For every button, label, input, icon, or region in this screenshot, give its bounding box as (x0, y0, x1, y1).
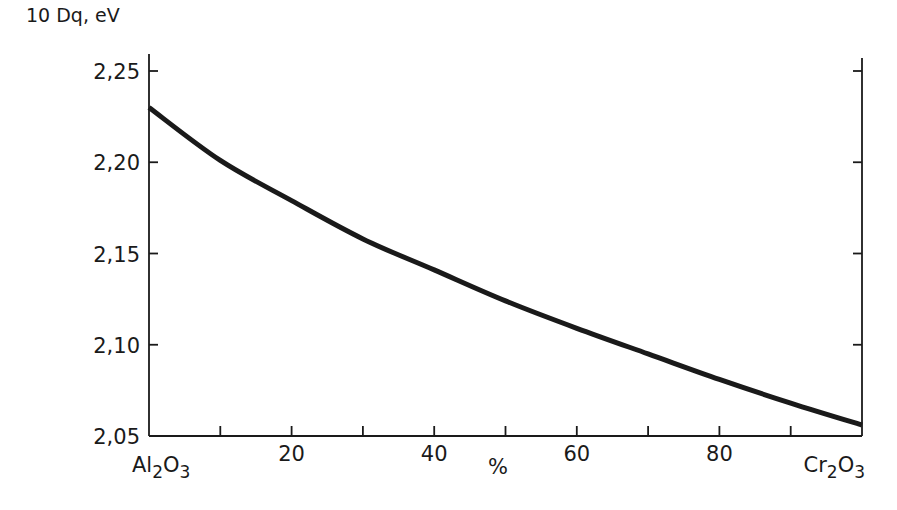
data-curve (149, 108, 862, 426)
y-tick-label: 2,20 (93, 151, 140, 175)
x-axis-label: % (488, 455, 508, 479)
y-axis-title: 10 Dq, eV (26, 4, 120, 26)
left-end-label-al2o3: Al2O3 (132, 453, 190, 482)
x-ticks (220, 426, 790, 436)
chart-canvas: 10 Dq, eV 2,052,102,152,202,25 20406080 … (0, 0, 897, 510)
y-tick-label: 2,05 (93, 425, 140, 449)
y-tick-label: 2,25 (93, 60, 140, 84)
y-tick-label: 2,10 (93, 334, 140, 358)
x-tick-label: 60 (563, 442, 590, 466)
curve-line-10dq (149, 108, 862, 426)
x-tick-label: 80 (706, 442, 733, 466)
y-tick-label: 2,15 (93, 243, 140, 267)
right-end-label-cr2o3: Cr2O3 (804, 453, 865, 482)
x-tick-label: 40 (421, 442, 448, 466)
axes (149, 54, 862, 436)
compound-label: Cr2O3 (804, 453, 865, 482)
compound-label: Al2O3 (132, 453, 190, 482)
x-tick-label: 20 (278, 442, 305, 466)
y-axis-label: 10 Dq, eV (26, 4, 120, 26)
